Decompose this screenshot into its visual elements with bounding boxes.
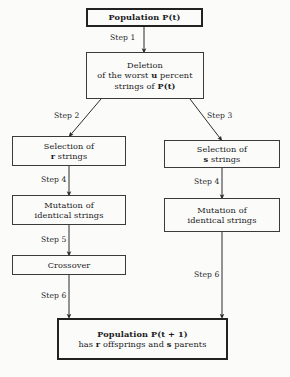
node-selection-r-line1: Selection of: [44, 141, 94, 152]
node-deletion: Deletion of the worst u percent strings …: [86, 52, 204, 99]
node-mutation-left-line1: Mutation of: [44, 200, 94, 211]
step-label-1: Step 1: [110, 33, 135, 42]
node-crossover-label: Crossover: [48, 260, 91, 271]
node-deletion-line1: Deletion: [127, 60, 163, 71]
node-selection-r-line2: r strings: [51, 151, 88, 162]
node-population-t1-line2: has r offsprings and s parents: [78, 339, 206, 350]
flowchart-canvas: Population P(t) Deletion of the worst u …: [0, 0, 290, 377]
node-selection-s-line2: s strings: [204, 154, 241, 165]
node-mutation-right: Mutation of identical strings: [164, 198, 280, 232]
node-selection-s-line1: Selection of: [197, 144, 247, 155]
node-crossover: Crossover: [12, 255, 126, 275]
step-label-4-right: Step 4: [194, 177, 219, 186]
step-label-6-left: Step 6: [41, 291, 66, 300]
step-label-2: Step 2: [54, 111, 79, 120]
node-selection-s: Selection of s strings: [164, 140, 280, 168]
step-label-6-right: Step 6: [194, 270, 219, 279]
node-selection-r: Selection of r strings: [12, 136, 126, 166]
step-label-5: Step 5: [41, 235, 66, 244]
node-mutation-left-line2: identical strings: [34, 210, 103, 221]
step-label-3: Step 3: [207, 111, 232, 120]
node-population-t: Population P(t): [86, 8, 203, 27]
node-mutation-left: Mutation of identical strings: [12, 195, 126, 225]
node-population-t1: Population P(t + 1) has r offsprings and…: [57, 318, 228, 360]
step-label-4-left: Step 4: [41, 175, 66, 184]
node-deletion-line2: of the worst u percent: [97, 70, 192, 81]
node-deletion-line3: strings of P(t): [114, 81, 175, 92]
node-population-t1-line1: Population P(t + 1): [97, 329, 188, 340]
node-population-t-label: Population P(t): [109, 12, 181, 23]
node-mutation-right-line2: identical strings: [187, 215, 256, 226]
node-mutation-right-line1: Mutation of: [197, 205, 247, 216]
